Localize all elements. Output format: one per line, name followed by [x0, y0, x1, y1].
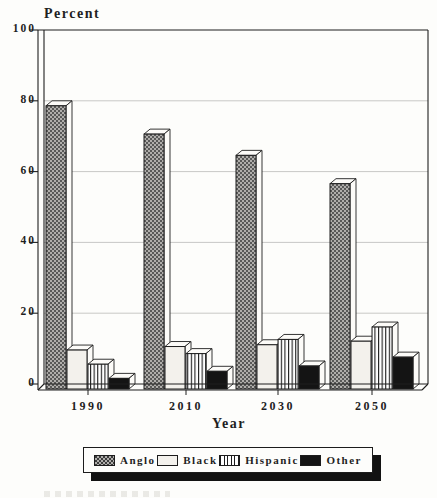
bar-other-2010 — [207, 366, 233, 389]
y-axis-title: Percent — [44, 6, 100, 22]
legend-item-other: Other — [300, 454, 362, 466]
legend-swatch-other — [300, 455, 321, 466]
legend-label: Hispanic — [245, 454, 299, 466]
y-tick-label-40: 40 — [2, 234, 36, 246]
y-tick-label-100: 100 — [2, 22, 36, 34]
x-axis-title: Year — [212, 416, 246, 432]
chart-canvas: Percent Year AngloBlackHispanicOther 199… — [0, 0, 437, 498]
legend-item-hispanic: Hispanic — [219, 454, 299, 466]
x-tick-label-2010: 2010 — [169, 399, 203, 414]
legend-item-black: Black — [157, 454, 217, 466]
legend-swatch-hispanic — [219, 455, 240, 466]
y-tick-label-80: 80 — [2, 93, 36, 105]
bar-other-1990 — [109, 373, 135, 389]
legend-box: AngloBlackHispanicOther — [83, 447, 373, 473]
bar-anglo-1990 — [46, 101, 72, 389]
legend-swatch-anglo — [94, 455, 115, 466]
y-tick-label-60: 60 — [2, 164, 36, 176]
y-tick-label-0: 0 — [2, 376, 36, 388]
x-tick-label-2050: 2050 — [355, 399, 389, 414]
legend-swatch-black — [157, 455, 178, 466]
y-tick-label-20: 20 — [2, 305, 36, 317]
cropped-caption-artifact — [44, 491, 170, 497]
legend-label: Black — [183, 454, 217, 466]
legend-item-anglo: Anglo — [94, 454, 156, 466]
x-tick-label-1990: 1990 — [71, 399, 105, 414]
legend-label: Anglo — [120, 454, 156, 466]
bar-other-2030 — [299, 361, 325, 389]
legend-label: Other — [326, 454, 362, 466]
x-tick-label-2030: 2030 — [261, 399, 295, 414]
